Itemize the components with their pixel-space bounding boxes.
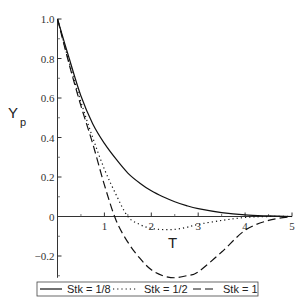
legend-label-1: Stk = 1/2 [144, 283, 188, 295]
x-tick-label: 1 [102, 220, 108, 232]
y-tick-label: 0.8 [41, 53, 55, 65]
legend-label-0: Stk = 1/8 [67, 283, 111, 295]
x-tick-label: 4 [242, 220, 248, 232]
y-tick-label: 1.0 [41, 13, 55, 25]
x-axis-title: T [168, 234, 177, 251]
y-tick-label: 0.4 [41, 132, 55, 144]
chart: −0.200.20.40.60.81.012345 T Y p Stk = 1/… [0, 0, 302, 305]
y-tick-label: 0 [49, 211, 55, 223]
y-axis-title-main: Y [8, 104, 18, 121]
x-tick-label: 3 [195, 220, 201, 232]
axes: −0.200.20.40.60.81.012345 [35, 13, 296, 278]
y-tick-label: 0.6 [41, 92, 55, 104]
x-tick-label: 2 [149, 220, 155, 232]
y-tick-label: −0.2 [35, 250, 55, 262]
y-axis-title: Y p [8, 104, 26, 128]
series-line-solid [58, 19, 293, 217]
x-tick-label: 5 [289, 220, 295, 232]
legend: Stk = 1/8 Stk = 1/2 Stk = 1 [37, 282, 258, 296]
y-axis-title-subscript: p [20, 116, 26, 128]
legend-label-2: Stk = 1 [223, 283, 258, 295]
y-tick-label: 0.2 [41, 171, 55, 183]
